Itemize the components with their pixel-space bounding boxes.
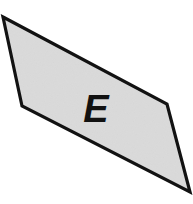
figure-canvas: E — [0, 0, 193, 204]
shape-diagram-svg: E — [0, 0, 193, 204]
shape-label-e: E — [83, 88, 110, 130]
